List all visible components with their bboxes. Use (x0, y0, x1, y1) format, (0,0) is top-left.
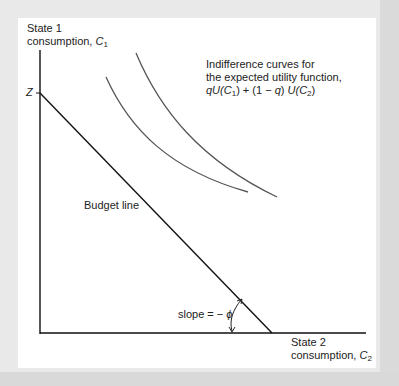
x-axis-label-text: consumption, (291, 349, 359, 361)
indifference-label-line2: the expected utility function, (206, 71, 342, 84)
phi-symbol: ϕ (226, 308, 232, 320)
budget-line (40, 93, 272, 333)
formula-part: (C (220, 84, 232, 96)
y-axis-label-text: consumption, (27, 35, 95, 47)
slope-angle-arc (231, 300, 241, 331)
x-axis-sub: 2 (367, 354, 371, 363)
x-axis-label: State 2 consumption, C2 (291, 336, 372, 362)
x-axis-label-line1: State 2 (291, 336, 372, 349)
slope-label-text: slope = − (178, 308, 226, 320)
indifference-label-line1: Indifference curves for (206, 58, 342, 71)
x-axis-label-line2: consumption, C2 (291, 349, 372, 362)
y-axis-label-line2: consumption, C1 (27, 35, 108, 48)
formula-part: qU (206, 84, 220, 96)
intercept-label: Z (26, 86, 33, 99)
budget-line-label: Budget line (84, 199, 139, 212)
formula-part: ) + (1 − (236, 84, 275, 96)
y-axis-label: State 1 consumption, C1 (27, 22, 108, 48)
y-axis-sub: 1 (103, 40, 107, 49)
expected-utility-formula: qU(C1) + (1 − q) U(C2) (206, 84, 342, 97)
indifference-curves-label: Indifference curves for the expected uti… (206, 58, 342, 97)
formula-part: ) (281, 84, 288, 96)
formula-part: ) (312, 84, 316, 96)
slope-label: slope = − ϕ (178, 308, 232, 321)
formula-part: (C (295, 84, 307, 96)
y-axis-label-line1: State 1 (27, 22, 108, 35)
